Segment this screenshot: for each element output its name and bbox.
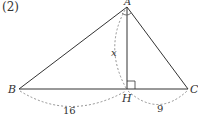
- length-label-16: 16: [63, 105, 76, 116]
- altitude-label-x: x: [111, 47, 117, 58]
- length-label-9: 9: [157, 103, 163, 114]
- side-AC: [127, 7, 188, 89]
- right-angle-mark: [127, 81, 135, 89]
- vertex-label-C: C: [190, 83, 198, 96]
- problem-number: (2): [2, 0, 19, 14]
- vertex-label-B: B: [7, 83, 16, 96]
- triangle-diagram: (2) A B C H x 16 9: [0, 0, 198, 117]
- vertex-label-A: A: [123, 0, 131, 7]
- vertex-label-H: H: [121, 92, 132, 105]
